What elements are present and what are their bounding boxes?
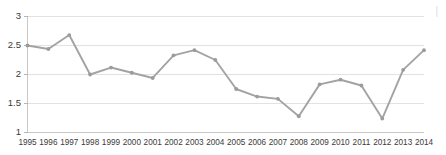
x-tick-label: 2006 [248,138,267,147]
data-point [26,44,30,48]
x-tick-label: 2000 [123,138,142,147]
data-point [193,48,197,52]
data-series [26,33,426,120]
y-tick-label: 2.5 [8,39,21,50]
x-tick-label: 1997 [60,138,79,147]
x-tick-label: 2009 [311,138,330,147]
data-point [46,47,50,51]
y-tick-labels: 11.522.53 [8,10,21,137]
data-point [297,114,301,118]
cropped-edge-mark [436,6,438,17]
x-tick-label: 2010 [331,138,350,147]
data-point [276,97,280,101]
x-tick-label: 2001 [144,138,163,147]
data-point [380,117,384,121]
x-tick-label: 1998 [81,138,100,147]
data-point [339,78,343,82]
chart-canvas: 11.522.53 199519961997199819992000200120… [0,0,446,155]
x-tick-label: 2007 [269,138,288,147]
data-point [109,66,113,70]
x-tick-label: 2002 [164,138,183,147]
y-tick-label: 2 [16,68,21,79]
data-point [422,48,426,52]
x-tick-label: 2013 [394,138,413,147]
line-chart: 11.522.53 199519961997199819992000200120… [0,0,446,155]
y-tick-label: 1 [16,126,21,137]
x-tick-label: 2008 [290,138,309,147]
x-tick-label: 2005 [227,138,246,147]
data-point [255,95,259,99]
data-point [130,71,134,75]
data-point [151,76,155,80]
data-point [318,82,322,86]
data-point [401,68,405,72]
y-tick-label: 1.5 [8,97,21,108]
x-tick-label: 1999 [102,138,121,147]
edge-artifact [436,6,438,17]
y-tick-label: 3 [16,10,21,21]
y-axis [24,17,28,133]
data-point [213,58,217,62]
x-tick-label: 2004 [206,138,225,147]
series-line [28,35,425,119]
data-point [234,87,238,91]
data-point [88,73,92,77]
x-tick-label: 1995 [18,138,37,147]
data-point [67,33,71,37]
x-tick-label: 2003 [185,138,204,147]
x-tick-labels: 1995199619971998199920002001200220032004… [18,138,433,147]
x-tick-label: 2012 [373,138,392,147]
data-point [172,53,176,57]
data-point [359,84,363,88]
x-tick-label: 2011 [353,138,371,147]
x-tick-label: 2014 [415,138,434,147]
x-tick-label: 1996 [39,138,58,147]
